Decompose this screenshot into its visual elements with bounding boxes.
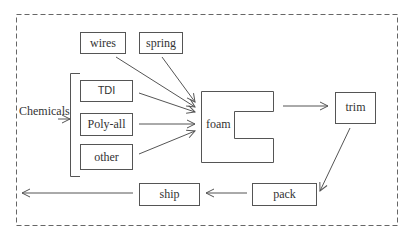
trim-to-pack-arrow (320, 128, 350, 191)
tdi-to-foam-arrow (139, 93, 195, 112)
tdi-label: TDI (80, 85, 133, 96)
other-to-foam-arrow (139, 131, 195, 154)
diagram-canvas (0, 0, 409, 237)
trim-label: trim (335, 101, 376, 113)
wires-label: wires (80, 37, 126, 49)
other-label: other (80, 151, 133, 163)
spring-to-foam-arrow (162, 57, 195, 102)
polyall-label: Poly-all (80, 118, 133, 130)
pack-label: pack (252, 188, 317, 200)
chemicals-bracket (71, 74, 81, 177)
chemicals-label: Chemicals (19, 105, 70, 117)
foam-label: foam (206, 118, 231, 130)
wires-to-foam-arrow (116, 57, 195, 107)
spring-label: spring (139, 37, 183, 49)
ship-label: ship (139, 188, 200, 200)
